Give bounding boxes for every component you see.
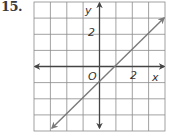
coordinate-graph: y 2 O 2 x (0, 0, 174, 140)
x-axis-label: x (151, 71, 159, 84)
y-axis-label: y (84, 4, 92, 17)
y-tick-label: 2 (88, 26, 95, 39)
x-tick-label: 2 (130, 69, 137, 82)
origin-label: O (88, 70, 97, 83)
